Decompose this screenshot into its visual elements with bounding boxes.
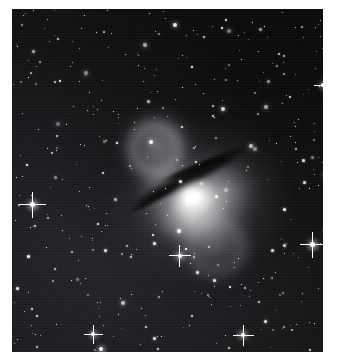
astronomy-plate [12, 9, 323, 352]
image-canvas: Bright galaxy core crossed by a dark dus… [0, 0, 339, 362]
scan-lines [12, 9, 323, 352]
